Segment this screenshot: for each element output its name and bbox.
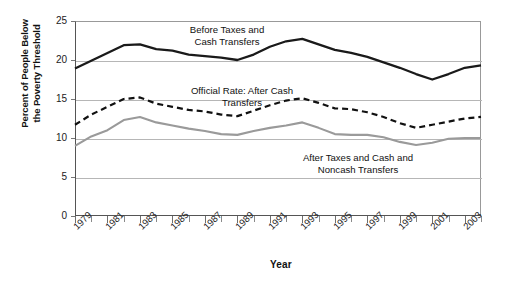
annotation-line: Cash Transfers <box>194 36 259 47</box>
gridline <box>76 178 482 179</box>
y-axis-title: Percent of People Belowthe Poverty Thres… <box>19 0 42 164</box>
annotation-line: Noncash Transfers <box>318 164 399 175</box>
series-label-after-taxes: After Taxes and Cash andNoncash Transfer… <box>276 152 440 175</box>
plot-area <box>75 21 481 216</box>
gridline <box>76 61 482 62</box>
annotation-line: Before Taxes and <box>190 24 265 35</box>
y-axis-tick-label: 15 <box>43 93 67 104</box>
annotation-line: Transfers <box>222 97 262 108</box>
y-axis-tick-label: 25 <box>43 15 67 26</box>
gridline <box>76 139 482 140</box>
y-axis-tick-label: 0 <box>43 210 67 221</box>
series-label-official-rate: Official Rate: After CashTransfers <box>176 85 308 108</box>
annotation-line: Official Rate: After Cash <box>191 85 293 96</box>
y-axis-title-line2: the Poverty Threshold <box>30 24 41 122</box>
y-axis-tick-label: 10 <box>43 132 67 143</box>
chart-figure: Percent of People Belowthe Poverty Thres… <box>0 0 506 283</box>
y-axis-tick-label: 5 <box>43 171 67 182</box>
y-axis-tick-label: 20 <box>43 54 67 65</box>
x-axis-title: Year <box>0 259 506 270</box>
y-axis-title-line1: Percent of People Below <box>19 19 30 128</box>
series-label-before-taxes: Before Taxes andCash Transfers <box>168 24 286 47</box>
annotation-line: After Taxes and Cash and <box>303 152 413 163</box>
x-axis-title-text: Year <box>270 259 292 270</box>
